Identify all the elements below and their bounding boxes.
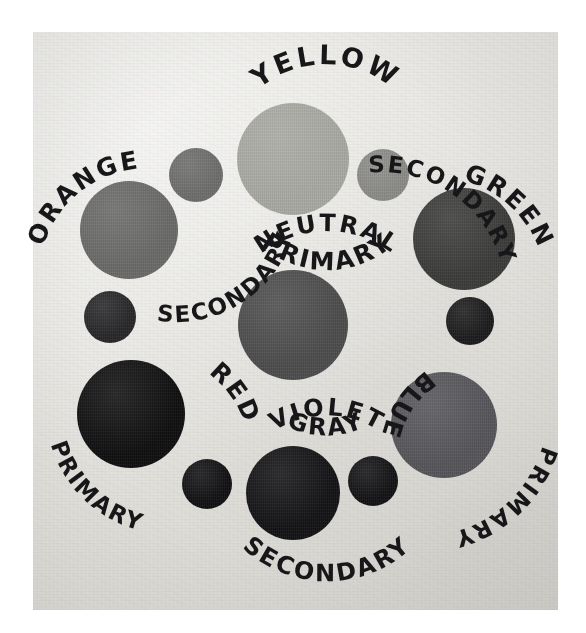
photo-vignette	[33, 32, 558, 610]
paper-chart-card: YELLOW PRIMARY ORANGE	[33, 32, 558, 610]
figure-canvas: YELLOW PRIMARY ORANGE	[0, 0, 586, 633]
